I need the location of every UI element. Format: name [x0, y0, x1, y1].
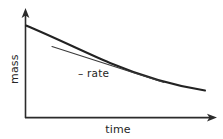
y-axis-label: mass	[9, 56, 20, 84]
rate-annotation-label: – rate	[78, 68, 122, 79]
decay-curve-path	[26, 26, 205, 91]
decay-curve-figure: mass time – rate	[0, 0, 223, 139]
x-axis-label: time	[78, 124, 158, 135]
x-axis	[25, 114, 217, 122]
y-axis	[22, 8, 30, 118]
